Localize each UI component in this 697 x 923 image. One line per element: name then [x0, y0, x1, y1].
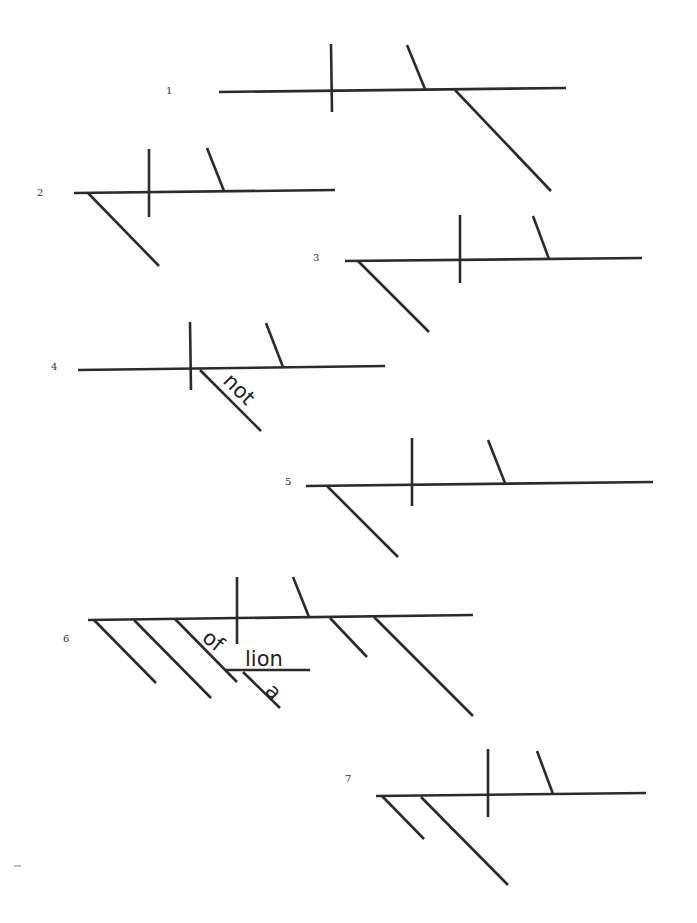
sentence-diagram-2: 2	[37, 148, 335, 266]
diagram-line	[327, 486, 398, 557]
sentence-diagram-5: 5	[285, 438, 653, 557]
sentence-diagram-7: 7	[345, 749, 646, 885]
sentence-diagram-6: 6ofliona	[63, 577, 473, 716]
diagram-line	[407, 45, 425, 89]
baseline	[306, 482, 653, 486]
diagram-number: 5	[285, 476, 291, 487]
diagram-line	[330, 618, 367, 657]
baseline	[219, 88, 566, 92]
sentence-diagram-1: 1	[166, 44, 566, 191]
diagram-line	[358, 261, 429, 332]
diagram-number: 1	[166, 85, 172, 96]
diagram-number: 6	[63, 633, 69, 644]
diagram-word: of	[198, 625, 229, 657]
baseline	[345, 258, 642, 261]
scan-speck	[14, 865, 21, 867]
diagram-line	[331, 44, 332, 112]
baseline	[376, 793, 646, 796]
diagram-line	[266, 323, 283, 367]
baseline	[74, 190, 335, 193]
baseline	[88, 615, 473, 620]
diagram-line	[190, 322, 191, 390]
diagrams-layer: 1234not56ofliona7	[37, 44, 653, 885]
diagram-line	[374, 617, 473, 716]
sentence-diagram-4: 4not	[51, 322, 385, 431]
diagram-word: lion	[245, 647, 283, 671]
baseline	[78, 366, 385, 370]
sentence-diagram-3: 3	[313, 215, 642, 332]
diagram-number: 4	[51, 361, 57, 372]
diagram-line	[134, 620, 211, 698]
diagram-line	[94, 620, 156, 683]
diagram-line	[488, 440, 505, 483]
diagram-line	[533, 216, 549, 259]
diagram-number: 3	[313, 252, 319, 263]
diagram-number: 7	[345, 773, 351, 784]
diagram-line	[293, 577, 309, 617]
diagram-line	[382, 796, 424, 839]
diagram-worksheet: 1234not56ofliona7	[0, 0, 697, 923]
diagram-word: not	[218, 369, 259, 410]
diagram-line	[537, 751, 553, 794]
diagram-line	[455, 90, 551, 191]
diagram-line	[207, 148, 224, 191]
diagram-number: 2	[37, 187, 43, 198]
diagram-line	[421, 797, 508, 885]
